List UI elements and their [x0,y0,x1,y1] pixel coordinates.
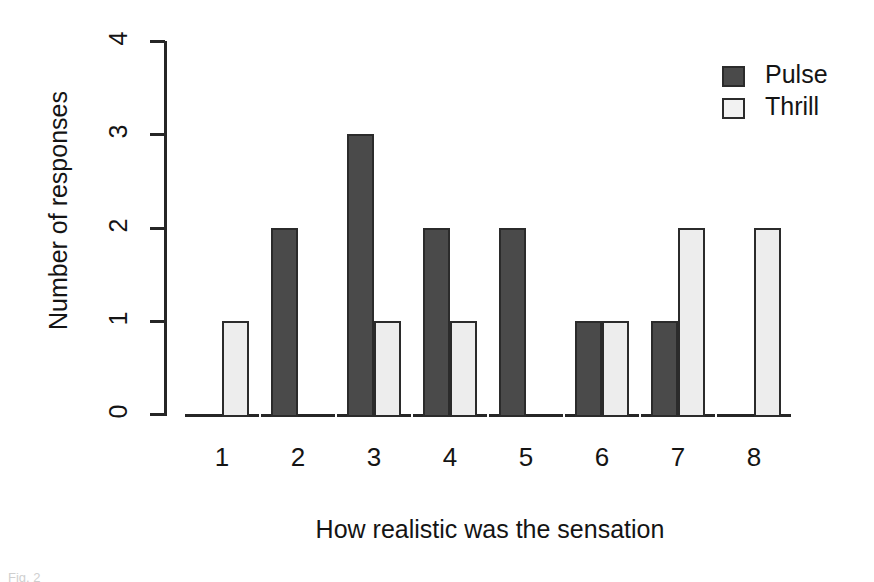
legend-label-thrill: Thrill [765,92,819,121]
bar-pulse-7 [651,321,678,417]
bar-chart-figure: Number of responses 01234 12345678 How r… [0,0,874,582]
x-tick-label-5: 5 [496,442,556,473]
x-tick-label-7: 7 [648,442,708,473]
legend-entry-thrill: Thrill [722,94,872,124]
bar-thrill-3 [374,321,401,417]
legend-swatch-pulse-icon [722,66,745,87]
x-axis-title: How realistic was the sensation [160,515,820,544]
bar-thrill-7 [678,228,705,418]
bar-thrill-8 [754,228,781,418]
x-tick-label-4: 4 [420,442,480,473]
x-tick-label-8: 8 [724,442,784,473]
bar-pulse-2 [271,228,298,418]
legend: Pulse Thrill [722,62,872,126]
x-tick-label-3: 3 [344,442,404,473]
bar-pulse-6 [575,321,602,417]
x-tick-label-2: 2 [268,442,328,473]
legend-entry-pulse: Pulse [722,62,872,92]
bar-pulse-4 [423,228,450,418]
x-tick-label-6: 6 [572,442,632,473]
bar-pulse-3 [347,134,374,417]
legend-label-pulse: Pulse [765,60,828,89]
legend-swatch-thrill-icon [722,98,745,119]
bar-thrill-1 [222,321,249,417]
bar-thrill-6 [602,321,629,417]
bar-thrill-4 [450,321,477,417]
x-tick-label-1: 1 [192,442,252,473]
bar-pulse-5 [499,228,526,418]
figure-caption-sliver: Fig. 2 [8,570,41,582]
